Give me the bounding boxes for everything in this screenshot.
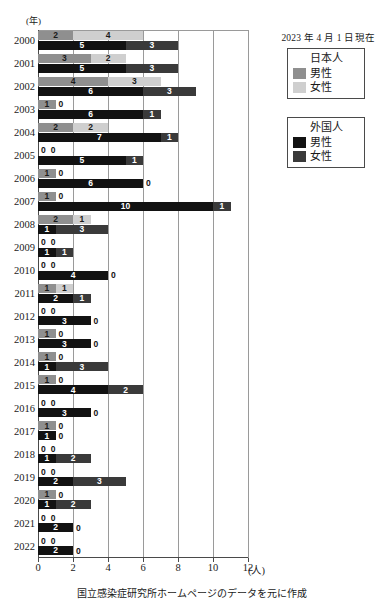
bar-value-label-zero: 0 <box>56 192 64 201</box>
bar-foreign: 30 <box>38 339 248 348</box>
bar-segment-male: 3 <box>38 339 91 348</box>
bar-value-label-zero: 0 <box>38 238 46 247</box>
year-axis-label: 2008 <box>14 220 35 231</box>
legend-item-japanese-female: 女性 <box>293 81 359 95</box>
bar-value-label: 3 <box>97 477 102 486</box>
x-tick-label-6: 6 <box>140 562 145 573</box>
legend-swatch-japanese-male <box>293 68 306 79</box>
bar-value-label: 1 <box>44 248 49 257</box>
bar-value-label-zero: 0 <box>56 169 64 178</box>
bar-value-label-zero: 0 <box>56 431 64 440</box>
bar-segment-female: 1 <box>213 202 231 211</box>
gridline-12 <box>248 30 249 558</box>
bar-value-label: 6 <box>88 179 93 188</box>
bar-japanese: 00 <box>38 398 248 407</box>
bar-segment-male: 1 <box>38 352 56 361</box>
bar-segment-female: 1 <box>126 156 144 165</box>
bar-segment-male: 1 <box>38 454 56 463</box>
bar-value-label: 1 <box>167 133 172 142</box>
bar-value-label: 1 <box>44 169 49 178</box>
bar-value-label: 4 <box>71 386 76 395</box>
bar-value-label: 1 <box>62 248 67 257</box>
bar-value-label: 2 <box>106 54 111 63</box>
bar-segment-female: 2 <box>56 454 91 463</box>
bar-value-label: 6 <box>88 110 93 119</box>
legend-label-foreign-male: 男性 <box>310 136 332 150</box>
year-row: 20160030 <box>38 397 248 420</box>
bar-value-label: 2 <box>53 31 58 40</box>
bar-value-label: 1 <box>44 363 49 372</box>
bar-value-label: 2 <box>71 454 76 463</box>
year-row: 20090011 <box>38 237 248 260</box>
bar-rows: 2000245320013253200243632003106120042271… <box>38 30 248 558</box>
bar-segment-male: 7 <box>38 133 161 142</box>
bar-value-label: 1 <box>44 432 49 441</box>
bar-japanese: 10 <box>38 100 248 109</box>
bar-segment-male: 4 <box>38 77 108 86</box>
bar-segment-male: 6 <box>38 110 143 119</box>
bar-value-label: 3 <box>62 340 67 349</box>
year-axis-label: 2022 <box>14 542 35 553</box>
bar-value-label: 1 <box>79 294 84 303</box>
bar-value-label-zero: 0 <box>48 536 56 545</box>
bar-value-label-zero: 0 <box>56 375 64 384</box>
year-axis-label: 2019 <box>14 473 35 484</box>
x-tick-label-2: 2 <box>70 562 75 573</box>
bar-foreign: 21 <box>38 294 248 303</box>
x-axis: 024681012(人) <box>38 558 248 576</box>
bar-value-label: 3 <box>62 54 67 63</box>
bar-segment-male: 6 <box>38 179 143 188</box>
legend-label-japanese-male: 男性 <box>310 67 332 81</box>
bar-segment-male: 1 <box>38 192 56 201</box>
bar-foreign: 20 <box>38 546 248 555</box>
bar-segment-male: 2 <box>38 294 73 303</box>
bar-value-label-zero: 0 <box>56 490 64 499</box>
legend-item-foreign-male: 男性 <box>293 136 359 150</box>
x-tick-label-8: 8 <box>175 562 180 573</box>
bar-foreign: 53 <box>38 64 248 73</box>
bar-japanese: 10 <box>38 490 248 499</box>
bar-segment-male: 6 <box>38 87 143 96</box>
bar-value-label-zero: 0 <box>38 261 46 270</box>
year-axis-label: 2020 <box>14 496 35 507</box>
bar-segment-male: 1 <box>38 490 56 499</box>
bar-value-label: 1 <box>44 284 49 293</box>
bar-segment-male: 5 <box>38 64 126 73</box>
bar-segment-male: 3 <box>38 54 91 63</box>
bar-segment-male: 2 <box>38 523 73 532</box>
x-tick-label-4: 4 <box>105 562 110 573</box>
x-tick-label-0: 0 <box>35 562 40 573</box>
bar-japanese: 10 <box>38 421 248 430</box>
bar-segment-male: 1 <box>38 100 56 109</box>
bar-value-label-zero: 0 <box>73 523 81 532</box>
bar-value-label: 6 <box>88 87 93 96</box>
bar-segment-female: 1 <box>73 294 91 303</box>
legend-foreign-title: 外国人 <box>293 121 359 135</box>
year-row: 20141013 <box>38 351 248 374</box>
bar-japanese: 10 <box>38 329 248 338</box>
bar-value-label: 1 <box>44 422 49 431</box>
bar-japanese: 00 <box>38 261 248 270</box>
bar-japanese: 24 <box>38 31 248 40</box>
year-row: 20082113 <box>38 214 248 237</box>
chart-root: 2023 年 4 月 1 日現在 日本人 男性 女性 外国人 男性 女性 (年)… <box>0 0 383 605</box>
year-row: 20111121 <box>38 283 248 306</box>
year-row: 20013253 <box>38 53 248 76</box>
as-of-date-note: 2023 年 4 月 1 日現在 <box>281 30 375 44</box>
bar-japanese: 00 <box>38 146 248 155</box>
bar-value-label: 7 <box>97 133 102 142</box>
bar-segment-female: 2 <box>108 385 143 394</box>
bar-segment-male: 1 <box>38 500 56 509</box>
bar-value-label: 1 <box>62 284 67 293</box>
bar-japanese: 00 <box>38 444 248 453</box>
legend-foreign: 外国人 男性 女性 <box>287 117 365 168</box>
bar-value-label: 2 <box>53 523 58 532</box>
bar-value-label-zero: 0 <box>48 306 56 315</box>
bar-japanese: 43 <box>38 77 248 86</box>
bar-foreign: 23 <box>38 477 248 486</box>
bar-segment-male: 2 <box>38 123 73 132</box>
bar-segment-male: 1 <box>38 431 56 440</box>
bar-segment-male: 3 <box>38 408 91 417</box>
bar-value-label-zero: 0 <box>48 513 56 522</box>
bar-segment-male: 1 <box>38 169 56 178</box>
